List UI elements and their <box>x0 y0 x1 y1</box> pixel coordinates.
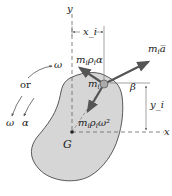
acceleration-vector <box>104 62 148 84</box>
angle-beta-label: β <box>130 82 136 92</box>
alpha-label: α <box>22 118 29 128</box>
normal-label: miρiω² <box>78 118 110 130</box>
omega-rotation-arrow <box>28 66 52 78</box>
center-of-mass-point <box>70 130 74 134</box>
tangential-label: miρiα <box>76 55 103 67</box>
center-of-mass-label: G <box>63 139 72 150</box>
omega-arrow-cw <box>12 96 22 116</box>
or-label: or <box>20 80 31 90</box>
particle-mi <box>100 80 108 88</box>
y-offset-label: y_i <box>150 100 164 110</box>
y-axis-label: y <box>67 4 73 14</box>
x-offset-label: x_i <box>83 27 97 37</box>
omega-label-2: ω <box>6 118 14 128</box>
acceleration-label: mia̅ <box>148 44 166 56</box>
particle-label: mi <box>88 79 100 91</box>
x-axis-label: x <box>164 127 170 137</box>
omega-label: ω <box>54 60 62 70</box>
alpha-arrow-cw <box>24 98 34 116</box>
